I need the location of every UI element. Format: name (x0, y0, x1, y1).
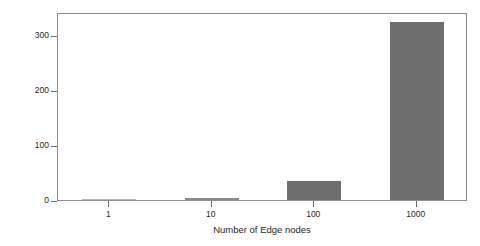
x-tick-label: 100 (283, 209, 343, 219)
y-tick-label-wrap: 200 (0, 86, 49, 95)
x-tick-label: 1000 (386, 209, 446, 219)
x-tick-label: 1 (78, 209, 138, 219)
bar (287, 181, 341, 200)
bar-chart: Expected deployment time (mins.) 0100200… (0, 0, 480, 246)
y-tick-label: 300 (5, 31, 49, 40)
y-tick-label: 0 (5, 196, 49, 205)
x-tick-mark (211, 201, 212, 207)
x-tick-mark (313, 201, 314, 207)
bar (390, 22, 444, 200)
x-tick-mark (108, 201, 109, 207)
bar (185, 198, 239, 200)
x-tick-mark (416, 201, 417, 207)
y-tick-label-wrap: 100 (0, 141, 49, 150)
x-tick-label: 10 (181, 209, 241, 219)
x-axis-title: Number of Edge nodes (57, 224, 467, 235)
plot-frame (57, 13, 467, 201)
y-tick-label: 100 (5, 141, 49, 150)
y-tick-label: 200 (5, 86, 49, 95)
y-tick-label-wrap: 300 (0, 31, 49, 40)
y-tick-label-wrap: 0 (0, 196, 49, 205)
plot-area (58, 14, 466, 200)
bar (82, 199, 136, 200)
